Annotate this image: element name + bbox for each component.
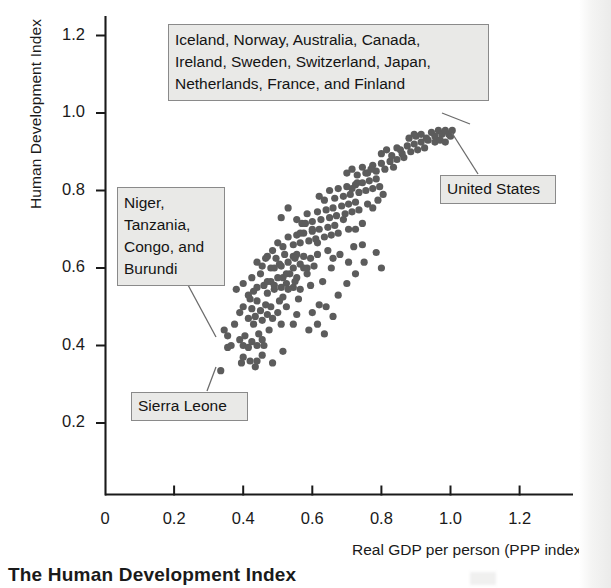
x-tick-label: 1.2 <box>498 509 542 528</box>
figure-caption: The Human Development Index <box>8 564 296 586</box>
y-tick-label: 1.0 <box>39 102 85 121</box>
x-axis-title: Real GDP per person (PPP index) <box>352 541 587 559</box>
x-tick-label: 0.8 <box>359 509 403 528</box>
leader-line-united-states <box>452 133 478 174</box>
annotation-united-states: United States <box>440 175 556 204</box>
y-tick-label: 1.2 <box>39 25 85 44</box>
annotation-low-hdi-countries: Niger, Tanzania, Congo, and Burundi <box>117 187 225 286</box>
x-tick-label: 1.0 <box>429 509 473 528</box>
x-tick-label: 0.4 <box>221 509 265 528</box>
x-tick-label: 0 <box>83 509 127 528</box>
hdi-scatter-figure: Human Development Index Real GDP per per… <box>0 0 611 588</box>
leader-line-high-hdi <box>442 113 470 124</box>
y-tick-label: 0.8 <box>39 180 85 199</box>
x-tick-label: 0.2 <box>152 509 196 528</box>
leader-line-low-hdi <box>188 285 216 337</box>
y-tick-label: 0.2 <box>39 412 85 431</box>
annotation-sierra-leone: Sierra Leone <box>131 392 248 421</box>
leader-line-sierra-leone <box>207 367 216 391</box>
y-tick-label: 0.4 <box>39 335 85 354</box>
x-tick-label: 0.6 <box>290 509 334 528</box>
y-tick-label: 0.6 <box>39 257 85 276</box>
annotation-high-hdi-countries: Iceland, Norway, Australia, Canada, Irel… <box>168 24 489 101</box>
scan-smudge <box>470 572 496 585</box>
